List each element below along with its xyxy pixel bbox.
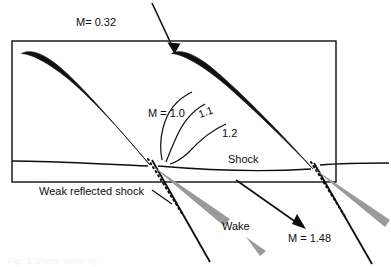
transonic-cascade-diagram: M= 0.32 M = 1.0 1.1 1.2 Shock Weak refle… xyxy=(0,0,391,267)
wake-middle xyxy=(151,165,230,226)
wake-middle-tail xyxy=(246,237,266,256)
shock-segment-middle xyxy=(158,166,311,170)
label-wake: Wake xyxy=(222,220,250,232)
shock-group xyxy=(12,161,389,170)
wake-right xyxy=(313,168,390,227)
label-sonic-line-2: 1.1 xyxy=(197,104,215,120)
label-shock: Shock xyxy=(228,153,259,165)
shock-segment-left xyxy=(12,161,148,166)
te-shock-leg-right xyxy=(314,163,372,264)
label-weak-reflected-shock: Weak reflected shock xyxy=(39,185,144,197)
label-inlet-mach: M= 0.32 xyxy=(76,16,116,28)
sonic-line-mach-1-2 xyxy=(170,124,226,164)
shock-segment-right xyxy=(320,163,389,165)
wake-group xyxy=(151,165,390,256)
figure-caption-cropped: Fig. 1 Shock wave sy xyxy=(8,256,97,266)
inlet-flow-arrow xyxy=(152,3,181,54)
label-sonic-line-1: M = 1.0 xyxy=(148,107,185,119)
label-outlet-mach: M = 1.48 xyxy=(288,232,331,244)
blade-upper-right xyxy=(172,52,314,169)
sonic-line-mach-1-0 xyxy=(161,92,192,160)
sonic-line-group xyxy=(161,92,226,164)
outlet-arrow-shaft xyxy=(236,180,300,225)
outlet-arrow-head xyxy=(292,214,306,229)
figure-root: M= 0.32 M = 1.0 1.1 1.2 Shock Weak refle… xyxy=(0,0,391,267)
blade-upper-left xyxy=(22,52,151,165)
label-sonic-line-3: 1.2 xyxy=(222,127,237,139)
te-shock-leg-middle xyxy=(152,160,210,262)
